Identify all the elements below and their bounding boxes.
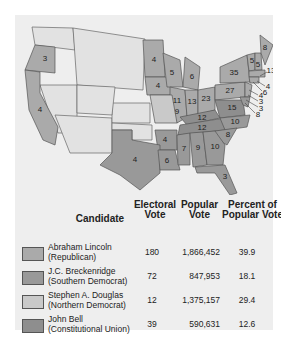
svg-text:7: 7 bbox=[182, 144, 187, 153]
svg-text:5: 5 bbox=[256, 60, 261, 69]
legend-swatch-northern-democrat bbox=[22, 295, 44, 309]
svg-text:4: 4 bbox=[133, 155, 138, 164]
header-percent-popular-vote: Percent ofPopular Vote bbox=[220, 200, 281, 220]
svg-text:8: 8 bbox=[256, 110, 261, 119]
state-new-jersey bbox=[245, 82, 252, 97]
header-candidate: Candidate bbox=[60, 214, 140, 224]
legend-swatch-constitutional-union bbox=[22, 319, 44, 333]
svg-text:12: 12 bbox=[198, 123, 207, 132]
svg-text:4: 4 bbox=[38, 105, 43, 114]
candidate-name: Stephen A. Douglas(Northern Democrat) bbox=[48, 291, 126, 310]
candidate-name: John Bell(Constitutional Union) bbox=[48, 315, 130, 334]
state-connecticut bbox=[249, 77, 259, 83]
svg-text:23: 23 bbox=[202, 94, 211, 103]
electoral-vote: 180 bbox=[142, 247, 162, 257]
svg-text:6: 6 bbox=[190, 72, 195, 81]
table-row-bell: John Bell(Constitutional Union) 39 590,6… bbox=[20, 315, 275, 339]
header-popular-vote: PopularVote bbox=[177, 200, 222, 220]
percent-popular-vote: 29.4 bbox=[232, 295, 262, 305]
map-svg: 3 4 4 5 6 4 11 13 23 27 35 5 5 8 9 12 15… bbox=[15, 15, 273, 195]
svg-text:13: 13 bbox=[188, 97, 197, 106]
legend-swatch-republican bbox=[22, 247, 44, 261]
territory-nm bbox=[55, 115, 112, 153]
candidate-name: J.C. Breckenridge(Southern Democrat) bbox=[48, 267, 127, 286]
territory-colorado bbox=[77, 85, 115, 115]
svg-text:12: 12 bbox=[198, 113, 207, 122]
popular-vote: 847,953 bbox=[170, 271, 220, 281]
svg-text:8: 8 bbox=[226, 130, 231, 139]
candidate-name: Abraham Lincoln(Republican) bbox=[48, 243, 112, 262]
svg-text:35: 35 bbox=[230, 68, 239, 77]
state-oregon bbox=[25, 45, 55, 73]
legend-swatch-southern-democrat bbox=[22, 271, 44, 285]
header-electoral-vote: ElectoralVote bbox=[130, 200, 180, 220]
electoral-vote: 39 bbox=[142, 319, 162, 329]
svg-text:3: 3 bbox=[223, 172, 228, 181]
electoral-vote: 72 bbox=[142, 271, 162, 281]
svg-text:3: 3 bbox=[43, 54, 48, 63]
svg-text:6: 6 bbox=[263, 88, 268, 97]
territory-kansas bbox=[112, 103, 150, 123]
svg-text:4: 4 bbox=[156, 81, 161, 90]
svg-text:5: 5 bbox=[170, 68, 175, 77]
table-row-lincoln: Abraham Lincoln(Republican) 180 1,866,45… bbox=[20, 243, 275, 267]
percent-popular-vote: 12.6 bbox=[232, 319, 262, 329]
svg-text:13: 13 bbox=[267, 66, 273, 75]
table-row-douglas: Stephen A. Douglas(Northern Democrat) 12… bbox=[20, 291, 275, 315]
svg-text:4: 4 bbox=[152, 55, 157, 64]
popular-vote: 590,631 bbox=[170, 319, 220, 329]
svg-text:5: 5 bbox=[250, 56, 255, 65]
popular-vote: 1,866,452 bbox=[170, 247, 220, 257]
svg-text:6: 6 bbox=[165, 156, 170, 165]
state-florida bbox=[195, 165, 237, 195]
svg-text:8: 8 bbox=[263, 43, 268, 52]
svg-text:10: 10 bbox=[231, 117, 240, 126]
popular-vote: 1,375,157 bbox=[170, 295, 220, 305]
svg-text:4: 4 bbox=[163, 135, 168, 144]
svg-text:15: 15 bbox=[228, 103, 237, 112]
percent-popular-vote: 18.1 bbox=[232, 271, 262, 281]
electoral-vote: 12 bbox=[142, 295, 162, 305]
percent-popular-vote: 39.9 bbox=[232, 247, 262, 257]
state-massachusetts bbox=[249, 70, 265, 77]
svg-text:9: 9 bbox=[175, 107, 180, 116]
svg-text:11: 11 bbox=[173, 96, 182, 105]
us-election-map: 3 4 4 5 6 4 11 13 23 27 35 5 5 8 9 12 15… bbox=[15, 15, 273, 195]
territory-nebraska-dakota bbox=[73, 28, 145, 90]
svg-text:27: 27 bbox=[226, 86, 235, 95]
svg-text:10: 10 bbox=[211, 142, 220, 151]
table-row-breckenridge: J.C. Breckenridge(Southern Democrat) 72 … bbox=[20, 267, 275, 291]
svg-text:9: 9 bbox=[196, 143, 201, 152]
